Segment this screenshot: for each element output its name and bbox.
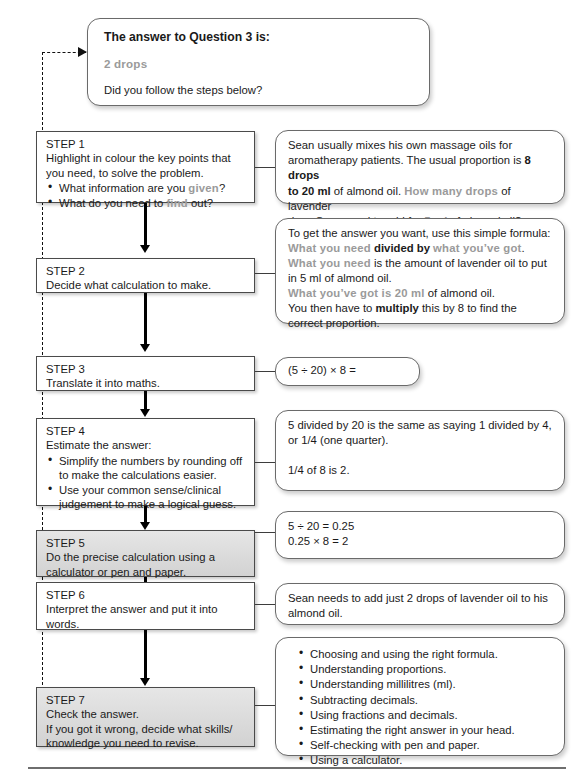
list-item: Estimating the right answer in your head… bbox=[310, 723, 552, 738]
arrowhead-4-5 bbox=[140, 522, 150, 530]
note-3-box: (5 ÷ 20) × 8 = bbox=[275, 357, 420, 386]
note-4-line3: 1/4 of 8 is 2. bbox=[288, 463, 552, 478]
highlight-how-many-drops: How many drops bbox=[404, 185, 498, 197]
branch-step2-note bbox=[255, 273, 277, 274]
list-item: What information are you given? bbox=[59, 181, 245, 195]
note-7-bullets: Choosing and using the right formula. Un… bbox=[288, 647, 552, 769]
list-item: Choosing and using the right formula. bbox=[310, 647, 552, 662]
connector-2-3 bbox=[144, 293, 147, 348]
step-6-box: STEP 6 Interpret the answer and put it i… bbox=[36, 582, 255, 630]
step-6-line1: Interpret the answer and put it into bbox=[46, 602, 245, 616]
note-5-box: 5 ÷ 20 = 0.25 0.25 × 8 = 2 bbox=[275, 511, 565, 559]
arrowhead-1-2 bbox=[140, 245, 150, 253]
note-6-box: Sean needs to add just 2 drops of lavend… bbox=[275, 583, 565, 625]
step-4-box: STEP 4 Estimate the answer: Simplify the… bbox=[36, 418, 255, 506]
step-5-box: STEP 5 Do the precise calculation using … bbox=[36, 530, 255, 577]
branch-step7-note bbox=[255, 705, 277, 706]
note-2-line1: To get the answer you want, use this sim… bbox=[288, 226, 552, 241]
branch-step6-note bbox=[255, 604, 277, 605]
branch-step5-note bbox=[255, 532, 277, 533]
step-5-label: STEP 5 bbox=[46, 536, 245, 550]
note-2-line7: correct proportion. bbox=[288, 316, 552, 331]
connector-6-7 bbox=[144, 630, 147, 682]
note-4-line2: or 1/4 (one quarter). bbox=[288, 433, 552, 448]
note-4-box: 5 divided by 20 is the same as saying 1 … bbox=[275, 410, 565, 491]
step-4-text: Estimate the answer: bbox=[46, 438, 245, 452]
step-5-line1: Do the precise calculation using a bbox=[46, 550, 245, 564]
step-1-line2: you need, to solve the problem. bbox=[46, 166, 245, 180]
highlight-given: given bbox=[188, 182, 219, 194]
list-item: What do you need to find out? bbox=[59, 196, 245, 210]
step-2-box: STEP 2 Decide what calculation to make. bbox=[36, 258, 255, 293]
note-4-line1: 5 divided by 20 is the same as saying 1 … bbox=[288, 418, 552, 433]
step-2-text: Decide what calculation to make. bbox=[46, 278, 245, 292]
step-3-text: Translate it into maths. bbox=[46, 376, 245, 390]
step-7-line1: Check the answer. bbox=[46, 707, 245, 721]
note-2-line3: What you need is the amount of lavender … bbox=[288, 256, 552, 271]
step-3-label: STEP 3 bbox=[46, 362, 245, 376]
branch-step1-note bbox=[255, 167, 277, 168]
note-7-box: Choosing and using the right formula. Un… bbox=[275, 637, 565, 756]
note-2-line4: in 5 ml of almond oil. bbox=[288, 271, 552, 286]
arrowhead-3-4 bbox=[140, 409, 150, 417]
step-7-line2: If you got it wrong, decide what skills/ bbox=[46, 722, 245, 736]
answer-box: The answer to Question 3 is: 2 drops Did… bbox=[87, 18, 430, 106]
list-item: Use your common sense/clinical judgement… bbox=[59, 483, 245, 512]
arrowhead-2-3 bbox=[140, 344, 150, 352]
arrowhead-6-7 bbox=[140, 678, 150, 686]
flowchart-page: The answer to Question 3 is: 2 drops Did… bbox=[0, 0, 584, 780]
list-item: Understanding millilitres (ml). bbox=[310, 677, 552, 692]
answer-followup: Did you follow the steps below? bbox=[104, 83, 413, 98]
note-1-box: Sean usually mixes his own massage oils … bbox=[275, 130, 565, 204]
note-5-line2: 0.25 × 8 = 2 bbox=[288, 534, 552, 549]
note-2-line2: What you need divided by what you’ve got… bbox=[288, 241, 552, 256]
answer-value: 2 drops bbox=[104, 56, 413, 71]
footer-divider bbox=[28, 767, 566, 769]
highlight-find: find bbox=[166, 197, 188, 209]
step-3-box: STEP 3 Translate it into maths. bbox=[36, 356, 255, 391]
connector-1-2 bbox=[144, 203, 147, 249]
step-4-bullets: Simplify the numbers by rounding off to … bbox=[46, 454, 245, 512]
note-3-formula: (5 ÷ 20) × 8 = bbox=[288, 363, 407, 378]
note-1-line3: to 20 ml of almond oil. How many drops o… bbox=[288, 184, 552, 214]
list-item: Simplify the numbers by rounding off to … bbox=[59, 454, 245, 483]
step-4-label: STEP 4 bbox=[46, 424, 245, 438]
branch-step4-note bbox=[255, 462, 277, 463]
step-7-label: STEP 7 bbox=[46, 693, 245, 707]
note-6-line1: Sean needs to add just 2 drops of lavend… bbox=[288, 591, 552, 606]
step-1-label: STEP 1 bbox=[46, 137, 245, 151]
note-1-line1: Sean usually mixes his own massage oils … bbox=[288, 138, 552, 153]
list-item: Self-checking with pen and paper. bbox=[310, 738, 552, 753]
note-5-line1: 5 ÷ 20 = 0.25 bbox=[288, 519, 552, 534]
step-1-line1: Highlight in colour the key points that bbox=[46, 151, 245, 165]
list-item: Using fractions and decimals. bbox=[310, 708, 552, 723]
step-1-box: STEP 1 Highlight in colour the key point… bbox=[36, 131, 255, 203]
note-1-line2: aromatherapy patients. The usual proport… bbox=[288, 153, 552, 183]
answer-heading: The answer to Question 3 is: bbox=[104, 30, 413, 45]
list-item: Understanding proportions. bbox=[310, 662, 552, 677]
note-2-box: To get the answer you want, use this sim… bbox=[275, 218, 565, 324]
step-2-label: STEP 2 bbox=[46, 264, 245, 278]
step-6-label: STEP 6 bbox=[46, 588, 245, 602]
note-2-line5: What you’ve got is 20 ml of almond oil. bbox=[288, 286, 552, 301]
note-2-line6: You then have to multiply this by 8 to f… bbox=[288, 301, 552, 316]
branch-step3-note bbox=[255, 371, 277, 372]
step-7-line3: knowledge you need to revise. bbox=[46, 736, 245, 750]
step-7-box: STEP 7 Check the answer. If you got it w… bbox=[36, 687, 255, 747]
list-item: Subtracting decimals. bbox=[310, 693, 552, 708]
feedback-loop-arrowhead bbox=[78, 47, 87, 57]
note-6-line2: almond oil. bbox=[288, 606, 552, 621]
